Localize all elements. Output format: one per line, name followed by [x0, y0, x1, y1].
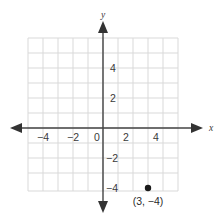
y-axis-arrow-up-icon: [98, 21, 108, 33]
x-tick-label-zero: 0: [94, 131, 100, 143]
y-tick-label-pos2: 2: [110, 92, 116, 104]
y-tick-label-neg2: −2: [106, 152, 118, 164]
y-tick-label-neg4: −4: [106, 182, 118, 194]
x-tick-label-neg4: −4: [37, 131, 49, 143]
y-tick-label-pos4: 4: [110, 62, 116, 74]
y-axis-arrow-down-icon: [98, 201, 108, 213]
data-point-3-neg4: [145, 185, 151, 191]
data-point-label: (3, −4): [133, 195, 164, 207]
coordinate-plane-figure: −4 −2 0 2 4 4 2 −2 −4 y x (3, −4): [0, 0, 219, 218]
x-tick-label-pos2: 2: [123, 131, 129, 143]
x-axis-arrow-left-icon: [10, 123, 22, 133]
x-tick-label-pos4: 4: [153, 131, 159, 143]
y-axis-label: y: [100, 10, 106, 20]
x-axis-label: x: [208, 123, 214, 133]
x-tick-label-neg2: −2: [67, 131, 79, 143]
plotted-point-group: (3, −4): [133, 185, 164, 207]
x-axis-tick-labels: −4 −2 0 2 4: [37, 131, 159, 143]
x-axis-arrow-right-icon: [191, 123, 203, 133]
coordinate-plane-canvas: −4 −2 0 2 4 4 2 −2 −4 y x (3, −4): [0, 0, 219, 218]
